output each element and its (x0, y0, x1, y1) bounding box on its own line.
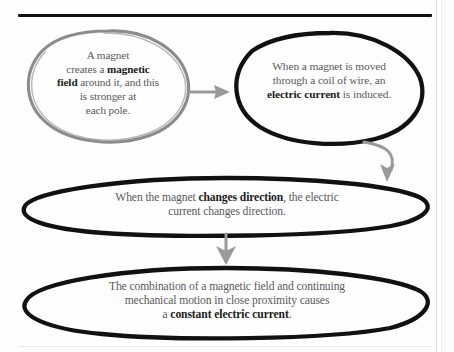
emphasis-term: field (57, 76, 78, 88)
node-text-magnet-field: A magnetcreates a magneticfield around i… (32, 49, 184, 117)
node-text-line: field around it, and this (32, 76, 184, 90)
text-run: is induced. (340, 88, 391, 100)
node-text-line: A magnet (32, 49, 184, 63)
text-run: The combination of a magnetic field and … (109, 280, 345, 293)
text-run: each pole. (86, 104, 130, 116)
node-text-line: When the magnet changes direction, the e… (60, 191, 394, 205)
node-text-line: is stronger at (32, 90, 184, 104)
node-text-electric-current-induced: When a magnet is movedthrough a coil of … (245, 60, 413, 102)
arrow-2-to-3 (364, 142, 395, 182)
emphasis-term: magnetic (107, 63, 150, 75)
arrow-3-to-4 (216, 234, 236, 265)
node-text-line: a constant electric current. (60, 308, 394, 322)
text-run: is stronger at (80, 90, 136, 102)
top-rule (18, 14, 432, 17)
node-text-constant-current: The combination of a magnetic field and … (60, 280, 394, 322)
emphasis-term: electric current (267, 88, 340, 100)
node-text-line: When a magnet is moved (245, 60, 413, 74)
text-run: When the magnet (115, 191, 198, 204)
node-text-line: each pole. (32, 104, 184, 118)
text-run: mechanical motion in close proximity cau… (125, 294, 330, 307)
node-text-changes-direction: When the magnet changes direction, the e… (60, 191, 394, 219)
text-run: creates a (66, 63, 107, 75)
text-run: , the electric (283, 191, 339, 204)
page-right-margin (441, 0, 454, 352)
node-text-line: electric current is induced. (245, 88, 413, 102)
node-text-line: mechanical motion in close proximity cau… (60, 294, 394, 308)
text-run: A magnet (87, 49, 129, 61)
node-text-line: current changes direction. (60, 205, 394, 219)
text-run: . (289, 308, 292, 321)
emphasis-term: changes direction (198, 191, 283, 204)
text-run: current changes direction. (168, 205, 285, 218)
emphasis-term: constant electric current (170, 308, 288, 321)
bottom-rule (18, 346, 432, 347)
node-text-line: creates a magnetic (32, 63, 184, 77)
text-run: When a magnet is moved (272, 60, 386, 72)
node-text-line: The combination of a magnetic field and … (60, 280, 394, 294)
text-run: around it, and this (78, 76, 160, 88)
node-text-line: through a coil of wire, an (245, 74, 413, 88)
text-run: through a coil of wire, an (273, 74, 386, 86)
page-right-divider (436, 0, 437, 352)
arrow-1-to-2 (190, 85, 230, 99)
